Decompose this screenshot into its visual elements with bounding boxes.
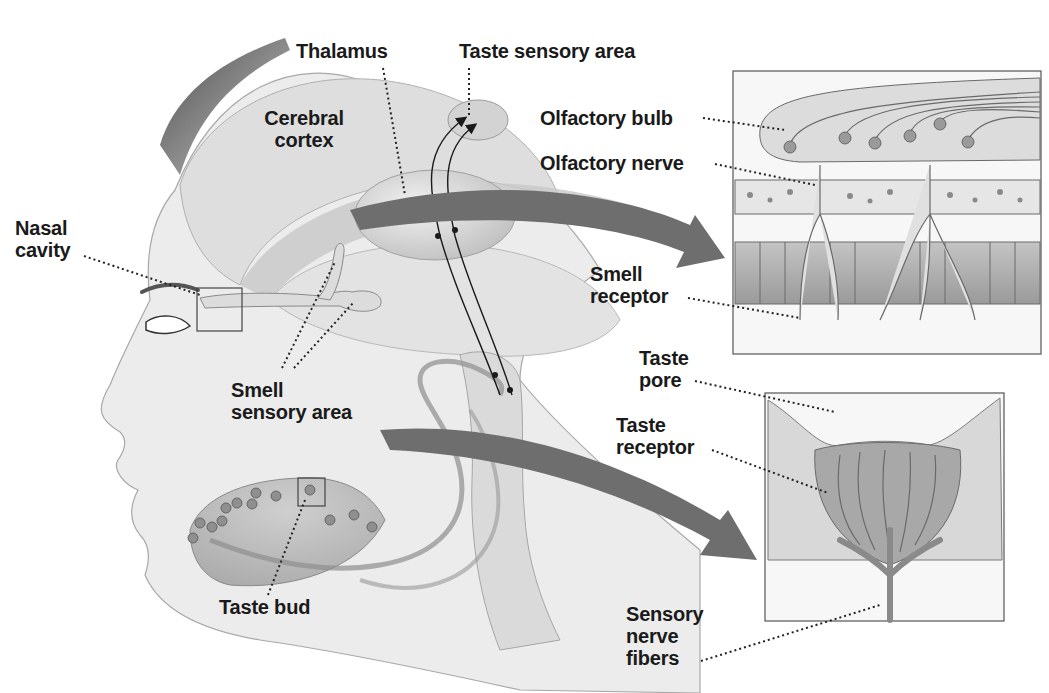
label-olfactory-nerve: Olfactory nerve: [540, 152, 684, 174]
label-smell-sensory-area: Smell sensory area: [231, 379, 352, 423]
synapse-dot: [492, 372, 498, 378]
label-taste-bud: Taste bud: [219, 596, 310, 618]
label-nasal-cavity: Nasal cavity: [15, 217, 71, 261]
smell-taste-diagram: [0, 0, 1049, 693]
label-taste-pore: Taste pore: [639, 347, 689, 391]
label-smell-receptor: Smell receptor: [590, 263, 668, 307]
taste-bud-inset: [765, 393, 1004, 621]
label-taste-sensory-area: Taste sensory area: [459, 40, 635, 62]
label-taste-receptor: Taste receptor: [616, 414, 694, 458]
label-sensory-nerve-fibers: Sensory nerve fibers: [626, 603, 704, 669]
synapse-dot: [452, 227, 458, 233]
taste-sensory-area-shape: [448, 100, 508, 140]
label-cerebral-cortex: Cerebral cortex: [260, 107, 348, 151]
synapse-dot: [507, 387, 513, 393]
label-thalamus: Thalamus: [296, 40, 388, 62]
head-illustration: [101, 38, 700, 693]
synapse-dot: [435, 233, 441, 239]
label-olfactory-bulb: Olfactory bulb: [540, 107, 673, 129]
olfactory-inset: [733, 71, 1041, 354]
